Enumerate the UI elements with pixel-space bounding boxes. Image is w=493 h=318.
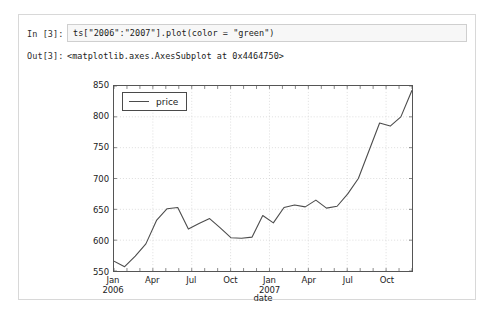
x-tick-label: Apr xyxy=(145,275,159,285)
code-input-text: ts["2006":"2007"].plot(color = "green") xyxy=(73,25,275,41)
y-tick-label: 650 xyxy=(65,205,109,215)
x-tick-label: Oct xyxy=(223,275,237,285)
y-axis-tick-labels: 550600650700750800850 xyxy=(63,85,109,272)
input-row: In [3]: ts["2006":"2007"].plot(color = "… xyxy=(19,25,475,45)
price-line-series xyxy=(114,86,412,271)
matplotlib-figure: 550600650700750800850 price Jan2006AprJu… xyxy=(63,67,433,295)
y-tick-label: 750 xyxy=(65,142,109,152)
y-tick-label: 850 xyxy=(65,80,109,90)
code-input-box[interactable]: ts["2006":"2007"].plot(color = "green") xyxy=(67,24,467,42)
legend-label-price: price xyxy=(156,97,178,107)
x-tick-label: Oct xyxy=(380,275,394,285)
y-tick-label: 700 xyxy=(65,174,109,184)
output-row: Out[3]: <matplotlib.axes.AxesSubplot at … xyxy=(19,47,475,67)
x-tick-label: Jan2007 xyxy=(259,275,280,295)
x-tick-label: Jul xyxy=(343,275,353,285)
chart-legend: price xyxy=(122,92,187,111)
y-tick-label: 800 xyxy=(65,111,109,121)
screenshot-root: In [3]: ts["2006":"2007"].plot(color = "… xyxy=(0,0,493,318)
notebook-cell-container: In [3]: ts["2006":"2007"].plot(color = "… xyxy=(18,14,476,300)
x-tick-label: Jul xyxy=(186,275,196,285)
plot-area: price xyxy=(113,85,413,272)
x-tick-label: Apr xyxy=(301,275,315,285)
x-axis-label: date xyxy=(113,293,413,303)
x-tick-label: Jan2006 xyxy=(102,275,123,295)
output-repr-text: <matplotlib.axes.AxesSubplot at 0x446475… xyxy=(67,47,284,65)
y-tick-label: 600 xyxy=(65,236,109,246)
legend-line-swatch xyxy=(129,101,149,102)
